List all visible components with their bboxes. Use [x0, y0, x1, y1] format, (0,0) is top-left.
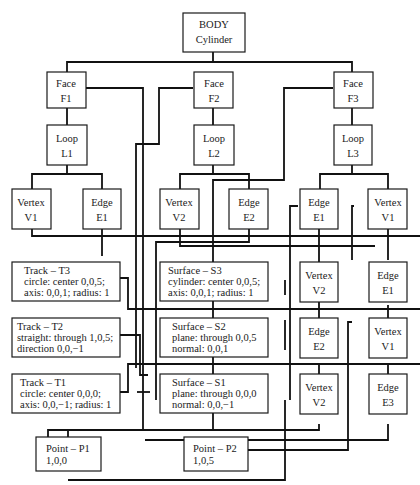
node-surface-s3: Surface – S3 cylinder: center 0,0,5; axi… [160, 262, 268, 301]
svg-text:axis: 0,0,1; radius: 1: axis: 0,0,1; radius: 1 [168, 287, 253, 298]
svg-text:E2: E2 [243, 212, 255, 223]
node-face-f2: Face F2 [194, 72, 233, 108]
svg-text:L2: L2 [208, 148, 220, 159]
svg-text:Vertex: Vertex [17, 197, 45, 208]
svg-text:direction 0,0,−1: direction 0,0,−1 [17, 343, 84, 354]
svg-text:Point – P2: Point – P2 [193, 443, 237, 454]
svg-text:circle: center 0,0,0;: circle: center 0,0,0; [20, 388, 101, 399]
node-face-f3: Face F3 [334, 72, 373, 108]
node-point-p1: Point – P1 1,0,0 [36, 437, 101, 471]
node-face-f1: Face F1 [47, 72, 86, 108]
node-l1-vertex-v1: Vertex V1 [12, 189, 51, 229]
svg-text:Vertex: Vertex [305, 382, 333, 393]
node-surface-s2: Surface – S2 plane: through 0,0,5 normal… [160, 318, 268, 357]
svg-text:plane: through 0,0,5: plane: through 0,0,5 [172, 332, 257, 343]
svg-text:plane: through 0,0,0: plane: through 0,0,0 [172, 388, 257, 399]
svg-text:normal: 0,0,1: normal: 0,0,1 [172, 343, 228, 354]
svg-text:E1: E1 [96, 212, 108, 223]
svg-text:Loop: Loop [342, 133, 364, 144]
node-col1-vertex-v2: Vertex V2 [300, 262, 338, 302]
node-surface-s1: Surface – S1 plane: through 0,0,0 normal… [160, 374, 268, 413]
node-point-p2: Point – P2 1,0,5 [184, 437, 248, 471]
svg-text:Edge: Edge [308, 326, 330, 337]
svg-text:normal: 0,0,−1: normal: 0,0,−1 [172, 399, 234, 410]
svg-text:E2: E2 [313, 341, 325, 352]
node-col2-edge-e3: Edge E3 [369, 374, 407, 414]
node-col2-vertex-v1: Vertex V1 [369, 318, 407, 358]
svg-text:Surface – S2: Surface – S2 [172, 321, 226, 332]
svg-text:L3: L3 [347, 148, 359, 159]
svg-text:L1: L1 [61, 148, 73, 159]
svg-text:axis: 0,0,−1; radius: 1: axis: 0,0,−1; radius: 1 [20, 399, 111, 410]
svg-text:V2: V2 [313, 285, 326, 296]
svg-text:V1: V1 [382, 212, 395, 223]
node-track-t2: Track – T2 straight: through 1,0,5; dire… [12, 318, 120, 357]
node-body: BODY Cylinder [183, 13, 245, 52]
svg-text:axis: 0,0,1; radius: 1: axis: 0,0,1; radius: 1 [24, 287, 109, 298]
node-l3-vertex-v1: Vertex V1 [368, 189, 407, 229]
svg-text:Surface – S3: Surface – S3 [168, 265, 222, 276]
svg-text:Edge: Edge [238, 197, 260, 208]
node-track-t1: Track – T1 circle: center 0,0,0; axis: 0… [12, 374, 120, 413]
svg-text:V1: V1 [25, 212, 38, 223]
node-loop-l1: Loop L1 [47, 125, 87, 165]
svg-text:E1: E1 [313, 212, 325, 223]
svg-text:Edge: Edge [377, 382, 399, 393]
svg-text:Vertex: Vertex [374, 197, 402, 208]
svg-text:Surface – S1: Surface – S1 [172, 377, 226, 388]
svg-text:Face: Face [343, 78, 363, 89]
svg-text:BODY: BODY [199, 19, 229, 30]
svg-text:1,0,5: 1,0,5 [193, 455, 214, 466]
svg-text:E1: E1 [382, 285, 394, 296]
svg-text:F2: F2 [208, 93, 219, 104]
node-loop-l3: Loop L3 [334, 125, 372, 165]
svg-text:Edge: Edge [91, 197, 113, 208]
node-l1-edge-e1: Edge E1 [83, 189, 121, 229]
svg-text:V2: V2 [313, 397, 326, 408]
svg-text:Edge: Edge [377, 270, 399, 281]
node-col2-edge-e1: Edge E1 [369, 262, 407, 302]
brep-tree-diagram: BODY Cylinder Face F1 Face F2 Face F3 Lo… [0, 0, 420, 485]
svg-text:Track – T3: Track – T3 [24, 265, 70, 276]
svg-text:Face: Face [204, 78, 224, 89]
svg-text:V1: V1 [382, 341, 395, 352]
svg-text:circle: center 0,0,5;: circle: center 0,0,5; [24, 276, 105, 287]
svg-text:Vertex: Vertex [165, 197, 193, 208]
node-l2-vertex-v2: Vertex V2 [160, 189, 199, 229]
node-l2-edge-e2: Edge E2 [229, 189, 268, 229]
svg-text:Loop: Loop [56, 133, 78, 144]
node-loop-l2: Loop L2 [194, 125, 234, 165]
svg-text:Point – P1: Point – P1 [46, 443, 90, 454]
svg-text:Face: Face [56, 78, 76, 89]
node-col1-vertex-v2-b: Vertex V2 [300, 374, 338, 414]
node-l3-edge-e1: Edge E1 [300, 189, 338, 229]
svg-text:E3: E3 [382, 397, 394, 408]
svg-text:Cylinder: Cylinder [196, 34, 233, 45]
svg-text:V2: V2 [173, 212, 186, 223]
svg-text:1,0,0: 1,0,0 [46, 455, 67, 466]
svg-text:Edge: Edge [308, 197, 330, 208]
node-track-t3: Track – T3 circle: center 0,0,5; axis: 0… [12, 262, 120, 301]
svg-text:Vertex: Vertex [305, 270, 333, 281]
svg-text:F3: F3 [347, 93, 358, 104]
svg-text:straight: through 1,0,5;: straight: through 1,0,5; [17, 332, 113, 343]
svg-text:Track – T2: Track – T2 [17, 321, 63, 332]
node-col1-edge-e2: Edge E2 [300, 318, 338, 358]
svg-text:cylinder: center 0,0,5;: cylinder: center 0,0,5; [168, 276, 260, 287]
svg-text:Loop: Loop [203, 133, 225, 144]
svg-text:Vertex: Vertex [374, 326, 402, 337]
svg-text:Track – T1: Track – T1 [20, 377, 66, 388]
svg-text:F1: F1 [60, 93, 71, 104]
